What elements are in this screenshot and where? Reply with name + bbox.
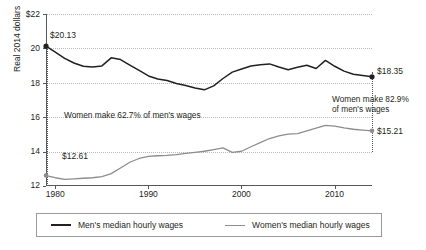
series-canvas xyxy=(46,14,372,186)
x-tick-label-2000: 2000 xyxy=(218,190,264,199)
women-series-line xyxy=(46,125,372,179)
women-end-marker xyxy=(370,128,375,133)
y-tick-label-12: 12 xyxy=(6,181,40,190)
y-tick-label-14: 14 xyxy=(6,147,40,156)
plot-area: $22 20 18 16 14 12 Real 2014 dollars 198… xyxy=(46,14,372,186)
legend-item-women[interactable]: Women's median hourly wages xyxy=(225,220,370,230)
women-end-value-label: $15.21 xyxy=(377,127,403,136)
legend-swatch-men-icon xyxy=(51,224,71,226)
men-series-line xyxy=(46,46,372,90)
women-start-value-label: $12.61 xyxy=(62,152,88,161)
men-end-value-label: $18.35 xyxy=(377,67,403,76)
y-tick-label-18: 18 xyxy=(6,79,40,88)
legend-label-women: Women's median hourly wages xyxy=(252,220,370,230)
annotation-left: Women make 62.7% of men's wages xyxy=(64,110,201,120)
x-tick-label-2010: 2010 xyxy=(312,190,358,199)
y-axis-title: Real 2014 dollars xyxy=(12,6,22,72)
men-start-marker xyxy=(43,44,48,49)
legend-label-men: Men's median hourly wages xyxy=(78,220,183,230)
men-end-marker xyxy=(369,74,374,79)
y-tick-label-16: 16 xyxy=(6,113,40,122)
chart-figure: $22 20 18 16 14 12 Real 2014 dollars 198… xyxy=(0,0,426,250)
x-tick-label-1980: 1980 xyxy=(32,190,78,199)
chart-legend: Men's median hourly wages Women's median… xyxy=(36,213,382,237)
x-tick-label-1990: 1990 xyxy=(125,190,171,199)
legend-swatch-women-icon xyxy=(225,225,245,226)
women-start-marker xyxy=(44,173,49,178)
men-start-value-label: $20.13 xyxy=(50,31,76,40)
annotation-right-line2: of men's wages xyxy=(332,104,389,114)
legend-item-men[interactable]: Men's median hourly wages xyxy=(51,220,183,230)
annotation-right-line1: Women make 82.9% xyxy=(332,94,409,104)
